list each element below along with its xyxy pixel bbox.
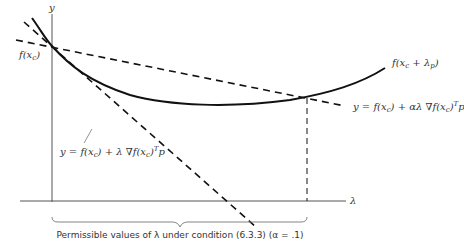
tangent-label: y = f(xc) + λ ∇f(xc)Tp: [59, 145, 165, 159]
sufficient-decrease-line: [16, 40, 345, 106]
sufficient-decrease-label: y = f(xc) + αλ ∇f(xc)Tp: [352, 100, 464, 114]
line-search-diagram: y λ f(xc) f(xc + λp) y = f(xc) + αλ ∇f(x…: [0, 0, 464, 243]
function-curve: [32, 18, 385, 105]
tangent-label-pointer: [84, 129, 92, 143]
f-xc-label: f(xc): [18, 49, 40, 62]
y-axis-label: y: [48, 2, 55, 13]
brace-caption: Permissible values of λ under condition …: [56, 230, 303, 240]
x-axis-label: λ: [349, 195, 356, 206]
permissible-range-brace: [52, 217, 307, 227]
curve-label: f(xc + λp): [391, 57, 439, 70]
